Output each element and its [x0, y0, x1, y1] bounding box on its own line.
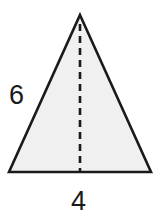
side-length-label: 6 — [9, 82, 24, 109]
figure-container: 6 4 — [0, 0, 160, 219]
base-length-label: 4 — [71, 188, 86, 215]
